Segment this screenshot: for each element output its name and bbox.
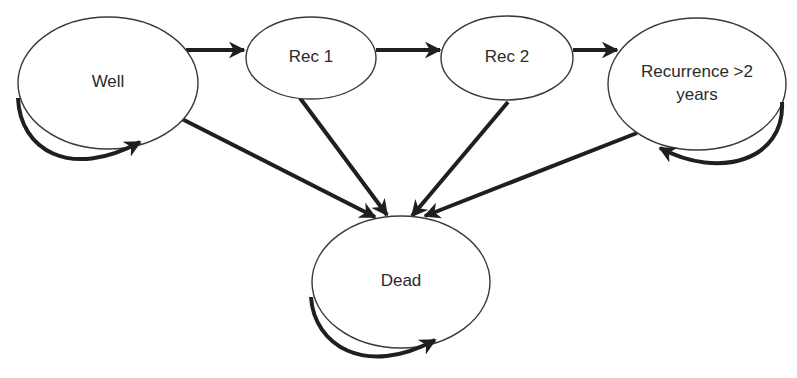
arrow-well-to-dead	[182, 119, 375, 217]
node-label: years	[676, 85, 718, 104]
state-transition-diagram: WellRec 1Rec 2Recurrence >2yearsDead	[0, 0, 797, 378]
node-recurrence: Recurrence >2years	[608, 18, 786, 150]
node-label: Dead	[381, 271, 422, 290]
node-well: Well	[18, 17, 198, 149]
arrow-recurrence-to-dead	[425, 133, 637, 216]
node-rec2: Rec 2	[441, 16, 573, 100]
node-rec1: Rec 1	[246, 17, 376, 99]
edges-layer	[182, 50, 637, 217]
nodes-layer: WellRec 1Rec 2Recurrence >2yearsDead	[18, 16, 786, 348]
arrow-rec1-to-dead	[300, 98, 387, 215]
node-dead: Dead	[312, 216, 490, 348]
node-label: Rec 2	[485, 47, 529, 66]
node-label: Well	[92, 72, 125, 91]
node-label: Recurrence >2	[641, 62, 753, 81]
arrow-rec2-to-dead	[412, 102, 508, 216]
node-label: Rec 1	[289, 47, 333, 66]
